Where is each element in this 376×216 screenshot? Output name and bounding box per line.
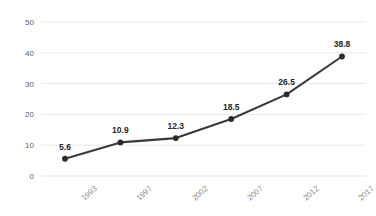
y-axis-tick-label: 40 [8, 48, 34, 57]
data-line [65, 57, 342, 159]
y-axis-tick-label: 0 [8, 172, 34, 181]
y-axis-tick-label: 50 [8, 18, 34, 27]
data-point-label: 10.9 [112, 125, 129, 135]
data-point-label: 38.8 [334, 39, 351, 49]
data-marker [284, 91, 290, 97]
y-axis-tick-label: 10 [8, 141, 34, 150]
data-point-label: 26.5 [278, 77, 295, 87]
data-marker [118, 140, 124, 146]
y-axis-tick-label: 30 [8, 79, 34, 88]
gridlines [41, 22, 366, 176]
data-point-label: 5.6 [59, 142, 71, 152]
data-marker [62, 156, 68, 162]
y-axis-tick-label: 20 [8, 110, 34, 119]
data-marker [228, 116, 234, 122]
data-point-label: 12.3 [168, 121, 185, 131]
data-marker [173, 135, 179, 141]
data-marker [339, 54, 345, 60]
data-point-label: 18.5 [223, 102, 240, 112]
